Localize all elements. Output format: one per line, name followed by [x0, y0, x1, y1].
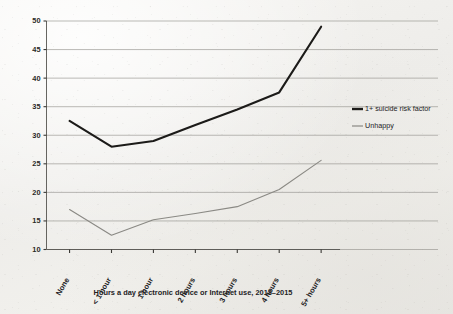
x-tick-label-6: 5+ hours — [299, 276, 323, 308]
y-tick-label-20: 20 — [32, 188, 40, 197]
gridlines — [47, 21, 439, 250]
data-series-group — [70, 27, 322, 236]
y-tick-label-10: 10 — [32, 245, 40, 254]
chart-legend: 1+ suicide risk factorUnhappy — [352, 104, 431, 130]
y-tick-label-15: 15 — [32, 216, 40, 225]
chart-figure: 101520253035404550 None< 1 hour1 hour2 h… — [0, 0, 453, 314]
y-axis-tick-labels: 101520253035404550 — [32, 16, 46, 254]
y-tick-label-30: 30 — [32, 131, 40, 140]
y-tick-label-45: 45 — [32, 45, 40, 54]
series-line-unhappy — [70, 160, 322, 235]
x-tick-label-0: None — [54, 276, 71, 297]
y-tick-label-35: 35 — [32, 102, 40, 111]
y-tick-label-25: 25 — [32, 159, 40, 168]
legend-label-0: 1+ suicide risk factor — [365, 104, 431, 113]
y-tick-label-50: 50 — [32, 16, 40, 25]
line-chart-svg: 101520253035404550 None< 1 hour1 hour2 h… — [0, 0, 453, 314]
series-line-suicide-risk — [70, 27, 322, 147]
x-axis-title: Hours a day electronic device or Interne… — [94, 288, 293, 297]
x-axis-tick-marks — [70, 250, 322, 254]
y-tick-label-40: 40 — [32, 74, 40, 83]
legend-label-1: Unhappy — [365, 121, 394, 130]
